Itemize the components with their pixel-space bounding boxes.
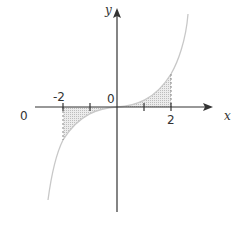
origin-label: 0 <box>107 92 115 106</box>
shaded-region-right <box>117 74 171 107</box>
tick-label-xneg2: -2 <box>53 90 65 104</box>
function-graph: -2 2 0 0 x y <box>0 0 242 226</box>
y-axis-label: y <box>104 3 112 17</box>
x-axis-label: x <box>224 109 231 123</box>
shaded-region-left <box>63 107 117 140</box>
left-zero-label: 0 <box>20 109 28 123</box>
tick-label-x2: 2 <box>167 113 175 127</box>
